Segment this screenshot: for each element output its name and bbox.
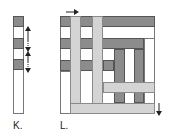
l-dark-block [103,60,114,71]
l-horizontal-light-bar [103,82,155,93]
down-arrow-icon [156,103,163,117]
k-dark-segment [13,59,24,70]
figure-k-label: K. [13,120,22,131]
l-horizontal-light-bar [70,103,155,114]
l-vertical-light-bar [92,16,103,104]
k-dark-segment [13,38,24,49]
figure-l-label: L. [60,120,68,131]
k-arrows-icon [24,16,34,76]
k-dark-segment [13,16,24,27]
l-vertical-dark-band [134,49,144,103]
l-vertical-light-bar [70,16,81,104]
right-arrow-icon [66,9,80,15]
l-vertical-dark-band [114,49,125,103]
